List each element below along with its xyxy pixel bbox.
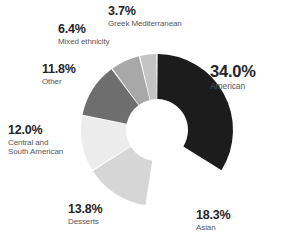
slice-label-central-and-south-american: 12.0% Central and South American: [8, 123, 63, 157]
slice-label-american: 34.0% American: [210, 62, 256, 91]
slice-name-asian: Asian: [196, 223, 230, 232]
donut-chart: 34.0% American 18.3% Asian 13.8% Dessert…: [0, 0, 294, 245]
slice-name-other: Other: [42, 77, 76, 86]
slice-percent-mixed-ethnicity: 6.4%: [58, 22, 109, 37]
slice-name-mixed-ethnicity: Mixed ethnicity: [58, 37, 109, 46]
slice-label-asian: 18.3% Asian: [196, 208, 230, 232]
slice-name-desserts: Desserts: [68, 217, 102, 226]
slice-percent-american: 34.0%: [210, 62, 256, 81]
slice-percent-greek-mediterranean: 3.7%: [108, 4, 182, 19]
slice-name-central-and-south-american-line2: South American: [8, 147, 63, 156]
slice-percent-other: 11.8%: [42, 62, 76, 77]
slice-label-mixed-ethnicity: 6.4% Mixed ethnicity: [58, 22, 109, 46]
slice-label-desserts: 13.8% Desserts: [68, 202, 102, 226]
slice-label-greek-mediterranean: 3.7% Greek Mediterranean: [108, 4, 182, 28]
slice-percent-desserts: 13.8%: [68, 202, 102, 217]
slice-percent-central-and-south-american: 12.0%: [8, 123, 63, 138]
slice-name-american: American: [210, 81, 256, 91]
slice-percent-asian: 18.3%: [196, 208, 230, 223]
slice-name-greek-mediterranean: Greek Mediterranean: [108, 19, 182, 28]
slice-label-other: 11.8% Other: [42, 62, 76, 86]
slice-name-central-and-south-american-line1: Central and: [8, 138, 63, 147]
